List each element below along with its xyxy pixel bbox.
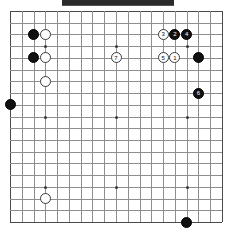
grid-line-vertical bbox=[151, 11, 152, 222]
grid-line-vertical bbox=[222, 11, 223, 222]
stone-move-number: 1 bbox=[173, 55, 176, 61]
grid-line-horizontal bbox=[10, 175, 222, 176]
stone-move-number: 7 bbox=[114, 55, 117, 61]
stone-white[interactable] bbox=[40, 29, 51, 40]
top-cropped-bar bbox=[62, 0, 174, 6]
star-point bbox=[186, 116, 189, 119]
stone-white[interactable]: 5 bbox=[158, 52, 169, 63]
stone-black[interactable] bbox=[181, 217, 192, 228]
star-point bbox=[186, 45, 189, 48]
grid-line-horizontal bbox=[10, 140, 222, 141]
stone-white[interactable] bbox=[40, 193, 51, 204]
grid-line-horizontal bbox=[10, 128, 222, 129]
stone-black[interactable] bbox=[28, 29, 39, 40]
stone-white[interactable]: 3 bbox=[158, 29, 169, 40]
stone-move-number: 2 bbox=[173, 31, 176, 37]
grid-line-vertical bbox=[198, 11, 199, 222]
stone-white[interactable] bbox=[40, 76, 51, 87]
grid-line-horizontal bbox=[10, 163, 222, 164]
star-point bbox=[44, 116, 47, 119]
star-point bbox=[115, 186, 118, 189]
grid-line-vertical bbox=[163, 11, 164, 222]
star-point bbox=[186, 186, 189, 189]
go-board[interactable]: 7324516 bbox=[10, 11, 222, 222]
stone-move-number: 6 bbox=[197, 90, 200, 96]
stone-white[interactable]: 7 bbox=[111, 52, 122, 63]
grid-line-vertical bbox=[128, 11, 129, 222]
stone-move-number: 3 bbox=[161, 31, 164, 37]
star-point bbox=[115, 116, 118, 119]
grid-line-vertical bbox=[175, 11, 176, 222]
grid-line-horizontal bbox=[10, 210, 222, 211]
grid-line-vertical bbox=[140, 11, 141, 222]
grid-line-vertical bbox=[210, 11, 211, 222]
stone-black[interactable]: 6 bbox=[193, 88, 204, 99]
stone-move-number: 5 bbox=[161, 55, 164, 61]
stone-black[interactable] bbox=[5, 99, 16, 110]
grid-line-horizontal bbox=[10, 152, 222, 153]
stone-move-number: 4 bbox=[185, 31, 188, 37]
